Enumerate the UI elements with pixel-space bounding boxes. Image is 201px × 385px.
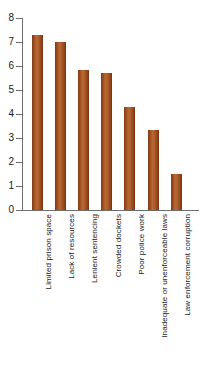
x-axis-category-label: Lenient sentencing — [87, 214, 98, 283]
y-axis-tick-label: 5 — [0, 85, 14, 95]
x-axis-category-label: Crowded dockets — [111, 214, 122, 277]
y-axis-tick-label: 7 — [0, 37, 14, 47]
x-axis-category-label-text: Lack of resources — [66, 214, 77, 279]
bar — [55, 42, 66, 210]
y-axis-tick-label: 8 — [0, 13, 14, 23]
x-axis-category-label-text: Lenient sentencing — [89, 214, 100, 283]
y-axis-tick-label: 4 — [0, 109, 14, 119]
bar-chart: 012345678 Limited prison spaceLack of re… — [0, 0, 201, 385]
x-axis-category-label-text: Poor police work — [136, 214, 147, 275]
bar — [171, 174, 182, 210]
y-axis-tick-label: 2 — [0, 157, 14, 167]
bar — [78, 70, 89, 210]
x-axis-category-label-text: Limited prison space — [43, 214, 54, 289]
y-axis-tick-label-text: 3 — [0, 133, 14, 143]
x-axis-category-labels: Limited prison spaceLack of resourcesLen… — [22, 214, 199, 385]
x-axis-category-label: Lack of resources — [64, 214, 75, 279]
bars-layer — [22, 18, 199, 210]
y-axis-tick-label-text: 7 — [0, 37, 14, 47]
y-axis-tick-label-text: 4 — [0, 109, 14, 119]
x-axis-category-label-text: Inadequate or unenforceable laws — [159, 214, 170, 338]
y-axis-tick-label-text: 6 — [0, 61, 14, 71]
y-axis-tick-label: 6 — [0, 61, 14, 71]
x-axis-line — [22, 210, 199, 211]
bar — [148, 130, 159, 210]
x-axis-category-label: Law enforcement corruption — [180, 214, 191, 316]
x-axis-category-label: Inadequate or unenforceable laws — [157, 214, 168, 338]
y-axis-tick-label-text: 5 — [0, 85, 14, 95]
bar — [124, 107, 135, 210]
bar — [101, 73, 112, 210]
x-axis-category-label: Poor police work — [134, 214, 145, 275]
bar — [32, 35, 43, 210]
y-axis-tick-label-text: 0 — [0, 205, 14, 215]
y-axis-tick — [16, 210, 22, 211]
x-axis-category-label: Limited prison space — [41, 214, 52, 289]
x-axis-category-label-text: Law enforcement corruption — [182, 214, 193, 316]
y-axis-tick-label-text: 2 — [0, 157, 14, 167]
y-axis-tick-label: 3 — [0, 133, 14, 143]
y-axis-tick-label: 0 — [0, 205, 14, 215]
y-axis-tick-label-text: 1 — [0, 181, 14, 191]
y-axis-tick-label: 1 — [0, 181, 14, 191]
x-axis-category-label-text: Crowded dockets — [113, 214, 124, 277]
y-axis-tick-label-text: 8 — [0, 13, 14, 23]
